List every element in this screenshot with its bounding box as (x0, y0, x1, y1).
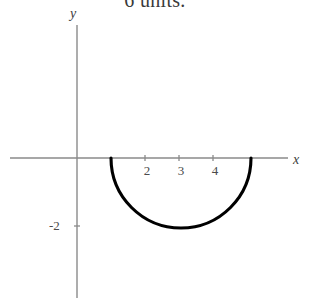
axis-label-x: x (293, 152, 299, 168)
plot-area (0, 0, 310, 298)
figure-canvas: 6 units. y x 2 3 4 -2 (0, 0, 310, 298)
y-tick-label-minus2: -2 (49, 218, 60, 234)
x-tick-label-3: 3 (178, 163, 185, 179)
x-tick-label-4: 4 (212, 163, 219, 179)
x-tick-label-2: 2 (144, 163, 151, 179)
axis-label-y: y (70, 6, 76, 22)
